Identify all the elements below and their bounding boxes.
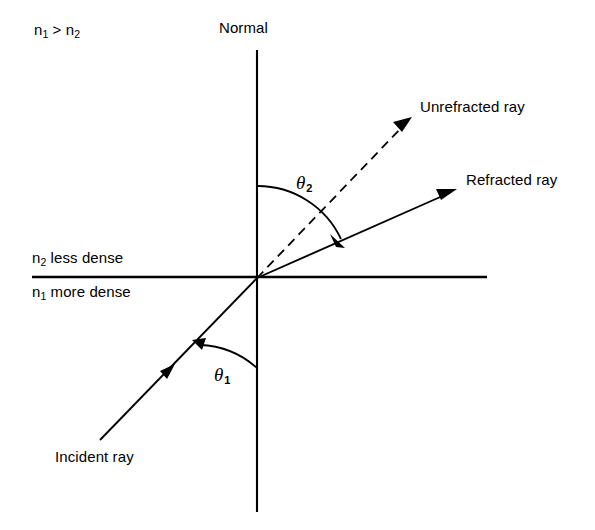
lower-medium-subscript: 1	[40, 290, 46, 302]
normal-label: Normal	[219, 20, 268, 37]
theta1-subscript: 1	[223, 374, 230, 386]
refracted-ray-line	[257, 194, 447, 278]
upper-medium-text: less dense	[51, 249, 124, 266]
theta2-label: θ2	[296, 172, 312, 194]
theta2-subscript: 2	[305, 182, 312, 194]
unrefracted-ray-arrowhead	[393, 117, 412, 132]
unrefracted-ray-line	[257, 125, 404, 278]
upper-medium-label: n2 less dense	[32, 250, 123, 268]
refracted-ray-label: Refracted ray	[466, 172, 557, 189]
unrefracted-ray-label: Unrefracted ray	[420, 99, 525, 116]
theta1-label: θ1	[214, 364, 230, 386]
upper-medium-subscript: 2	[40, 256, 46, 268]
lower-medium-label: n1 more dense	[32, 284, 131, 302]
index-relation-n2-subscript: 2	[74, 28, 80, 40]
incident-ray-line	[100, 278, 257, 440]
theta1-symbol: θ	[214, 364, 223, 385]
lower-medium-text: more dense	[51, 283, 131, 300]
incident-ray-label: Incident ray	[55, 449, 134, 466]
refraction-diagram: n1 > n2 Normal n2 less dense n1 more den…	[0, 0, 595, 530]
index-relation-label: n1 > n2	[34, 22, 80, 40]
theta2-symbol: θ	[296, 172, 305, 193]
index-relation-operator: > n	[48, 21, 74, 38]
